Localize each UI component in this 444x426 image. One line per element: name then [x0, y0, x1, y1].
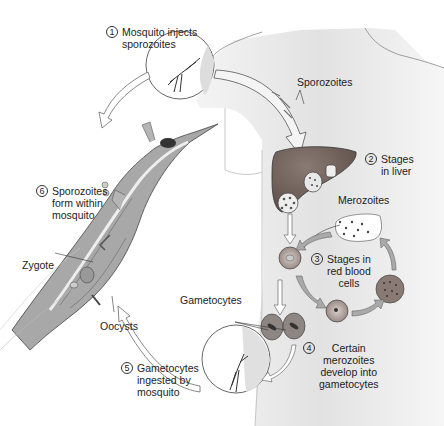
step-number-badge: 1 [106, 26, 118, 38]
zygote-label: Zygote [22, 259, 54, 271]
gametocytes-label: Gametocytes [180, 294, 242, 306]
mosquito-body-cross-section [0, 122, 218, 350]
step-3-label: 3 Stages in red blood cells [311, 253, 371, 289]
step-4-label: 4 Certain merozoites develop into gameto… [303, 342, 379, 390]
malaria-life-cycle-diagram: 1 Mosquito injects sporozoites Sporozoit… [0, 0, 444, 426]
merozoites-label: Merozoites [338, 194, 389, 206]
step-2-label: 2 Stages in liver [365, 153, 414, 177]
step-6-label: 6 Sporozoites form within mosquito [36, 185, 107, 221]
oocysts-label: Oocysts [100, 320, 138, 332]
step-1-label: 1 Mosquito injects sporozoites [106, 26, 197, 50]
ingestion-magnifier-circle [202, 325, 270, 393]
step-5-label: 5 Gametocytes ingested by mosquito [121, 362, 199, 398]
sporozoites-label: Sporozoites [297, 76, 352, 88]
